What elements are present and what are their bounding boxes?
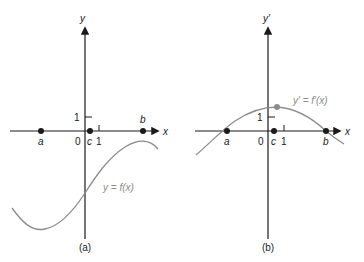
origin-label: 0 (258, 136, 264, 147)
origin-label: 0 (75, 136, 81, 147)
x-axis-label: x (344, 126, 351, 137)
point-b (323, 128, 329, 134)
y-axis-label: y (79, 13, 86, 24)
curve-label: y′ = f′(x) (292, 95, 328, 106)
panel-a-caption: (a) (79, 242, 91, 253)
y-axis-label: y′ (262, 13, 271, 24)
point-c-label: c (271, 136, 276, 147)
panel-b: y′ x 1 1 0 y′ = f′(x) a c b (b) (195, 13, 351, 253)
point-a-label: a (224, 136, 230, 147)
point-a (38, 128, 44, 134)
point-c-label: c (87, 136, 92, 147)
point-a-label: a (38, 136, 44, 147)
curve-label: y = f(x) (102, 182, 134, 193)
y-tick-label: 1 (74, 112, 80, 123)
point-b (140, 128, 146, 134)
x-axis-label: x (162, 126, 169, 137)
max-point (274, 104, 280, 110)
panel-a: y x 1 1 0 y = f(x) a c b (a) (10, 13, 169, 253)
point-c (87, 128, 93, 134)
point-b-label: b (323, 136, 329, 147)
mean-value-diagram: y x 1 1 0 y = f(x) a c b (a) y′ x 1 1 0 (0, 0, 364, 262)
y-tick-label: 1 (257, 112, 263, 123)
point-b-label: b (140, 114, 146, 125)
x-tick-label: 1 (96, 136, 102, 147)
x-tick-label: 1 (281, 136, 287, 147)
point-c (271, 128, 277, 134)
point-a (224, 128, 230, 134)
panel-b-caption: (b) (262, 242, 274, 253)
